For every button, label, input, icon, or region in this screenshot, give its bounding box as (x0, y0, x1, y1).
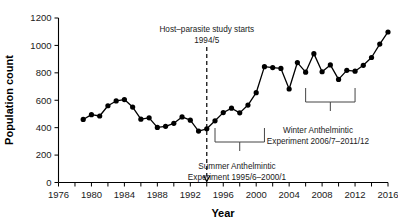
series-line-population (83, 32, 388, 131)
data-point (262, 64, 267, 69)
y-tick-label: 200 (36, 149, 52, 160)
data-point (114, 98, 119, 103)
x-tick-label: 2012 (344, 189, 365, 200)
data-point (369, 55, 374, 60)
data-point (352, 69, 357, 74)
x-tick-label: 2000 (246, 189, 267, 200)
y-axis-title: Population count (3, 55, 15, 145)
data-point (287, 86, 292, 91)
data-point (229, 106, 234, 111)
study-start-label-line2: 1994/5 (194, 36, 219, 45)
x-tick-label: 2004 (279, 189, 300, 200)
y-axis-ticks (55, 18, 59, 183)
summer-experiment-label-line1: Summer Anthelmintic (198, 162, 275, 171)
data-point (295, 60, 300, 65)
data-point (138, 117, 143, 122)
data-point (328, 62, 333, 67)
x-tick-label: 1988 (147, 189, 168, 200)
study-start-label-line1: Host–parasite study starts (159, 25, 254, 34)
data-point (270, 65, 275, 70)
data-point (171, 121, 176, 126)
data-point (254, 90, 259, 95)
x-tick-label: 1996 (213, 189, 234, 200)
data-point (221, 110, 226, 115)
data-point (320, 69, 325, 74)
data-point (278, 66, 283, 71)
x-tick-labels: 1976198019841988199219962000200420082012… (48, 189, 398, 200)
x-tick-label: 1984 (114, 189, 135, 200)
data-point (336, 77, 341, 82)
y-tick-label: 0 (46, 177, 51, 188)
data-point (245, 102, 250, 107)
x-axis-ticks (59, 183, 389, 187)
series-markers-population (81, 29, 391, 133)
data-point (212, 118, 217, 123)
x-axis-title: Year (211, 207, 235, 219)
winter-experiment-label-line2: Experiment 2006/7–2011/12 (267, 137, 370, 146)
y-tick-label: 1200 (30, 12, 51, 23)
x-tick-label: 1992 (180, 189, 201, 200)
y-tick-label: 1000 (30, 40, 51, 51)
winter-experiment-label-line1: Winter Anthelmintic (283, 126, 353, 135)
data-point (147, 115, 152, 120)
data-point (155, 125, 160, 130)
x-tick-label: 1976 (48, 189, 69, 200)
summer-experiment-bracket (215, 128, 264, 151)
data-point (130, 105, 135, 110)
y-tick-label: 400 (36, 122, 52, 133)
data-point (188, 118, 193, 123)
x-tick-label: 2008 (312, 189, 333, 200)
data-point (122, 97, 127, 102)
data-point (311, 51, 316, 56)
data-point (237, 110, 242, 115)
y-tick-label: 800 (36, 67, 52, 78)
data-point (179, 114, 184, 119)
y-tick-label: 600 (36, 95, 52, 106)
data-point (89, 112, 94, 117)
chart-svg: 020040060080010001200 197619801984198819… (0, 0, 398, 224)
summer-experiment-label-line2: Experiment 1995/6–2000/1 (188, 173, 287, 182)
x-tick-label: 2016 (377, 189, 398, 200)
x-tick-label: 1980 (81, 189, 102, 200)
data-point (105, 103, 110, 108)
data-point (163, 124, 168, 129)
data-point (344, 68, 349, 73)
data-point (377, 41, 382, 46)
data-point (81, 117, 86, 122)
data-point (361, 63, 366, 68)
data-point (303, 70, 308, 75)
data-point (97, 113, 102, 118)
data-point (385, 29, 390, 34)
y-tick-labels: 020040060080010001200 (30, 12, 51, 188)
data-point (196, 128, 201, 133)
population-count-chart: 020040060080010001200 197619801984198819… (0, 0, 398, 224)
winter-experiment-bracket (306, 88, 355, 111)
